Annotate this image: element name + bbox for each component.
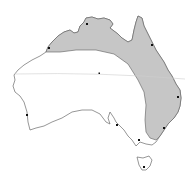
city-broome	[48, 47, 50, 49]
city-alice-springs	[99, 73, 101, 75]
city-cairns	[151, 44, 153, 46]
city-hobart	[143, 166, 145, 168]
city-adelaide	[116, 124, 118, 126]
city-sydney	[163, 127, 165, 129]
city-melbourne	[138, 139, 140, 141]
city-darwin	[86, 23, 88, 25]
city-brisbane	[177, 96, 179, 98]
city-perth	[26, 114, 28, 116]
australia-map	[0, 0, 192, 187]
